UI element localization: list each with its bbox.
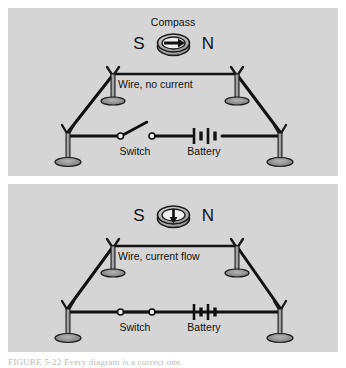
switch-label: Switch	[120, 145, 151, 157]
battery-label: Battery	[187, 145, 221, 157]
compass-south-label: S	[133, 34, 144, 53]
wire-state-label: Wire, current flow	[118, 250, 200, 262]
figure-caption: FIGURE 5-22 Every diagram is a correct o…	[8, 356, 338, 368]
battery-label: Battery	[187, 321, 221, 333]
figure-container: Compass S N	[0, 0, 346, 368]
switch-closed-symbol[interactable]	[118, 309, 156, 315]
switch-open-symbol[interactable]	[118, 122, 156, 139]
switch-label: Switch	[120, 321, 151, 333]
compass-north-label: N	[202, 34, 214, 53]
panel-no-current: Compass S N	[8, 8, 338, 176]
figure-caption-text: FIGURE 5-22 Every diagram is a correct o…	[8, 356, 338, 368]
battery-symbol	[194, 128, 215, 144]
panel-current-flow: S N	[8, 184, 338, 352]
panel-current-flow-diagram: S N	[8, 184, 338, 352]
wire-state-label: Wire, no current	[118, 78, 193, 90]
compass-north-label: N	[202, 206, 214, 225]
compass-icon	[158, 206, 190, 228]
compass-icon	[158, 34, 190, 56]
compass-title-label: Compass	[151, 16, 195, 28]
panel-no-current-diagram: Compass S N	[8, 8, 338, 176]
compass-south-label: S	[133, 206, 144, 225]
